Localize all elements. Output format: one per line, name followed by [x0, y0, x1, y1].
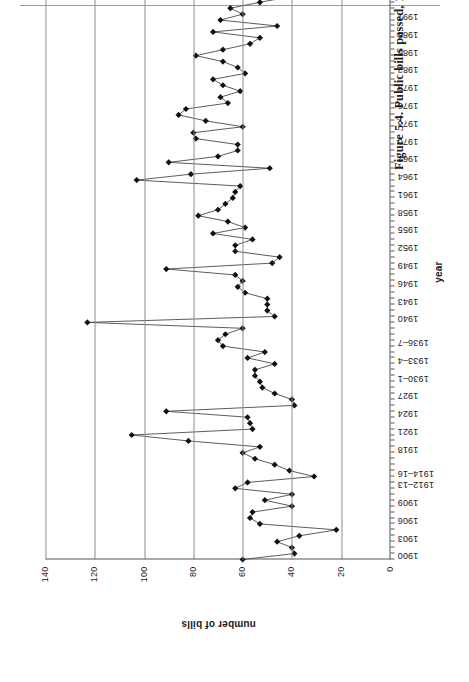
- data-point-marker: [227, 5, 233, 11]
- data-point-marker: [259, 384, 265, 390]
- data-point-marker: [210, 29, 216, 35]
- x-tick: [391, 250, 395, 251]
- y-tick-label: 140: [41, 567, 50, 583]
- x-tick-label: 1921: [398, 427, 419, 436]
- x-tick-label: 1918: [398, 445, 419, 454]
- y-tick-label: 80: [189, 567, 198, 577]
- x-tick: [391, 173, 395, 174]
- x-tick: [391, 209, 395, 210]
- x-tick-label: 1940: [398, 314, 419, 323]
- x-tick: [391, 446, 395, 447]
- y-tick-label: 120: [90, 567, 99, 583]
- y-tick-label: 40: [287, 567, 296, 577]
- y-tick-label: 20: [337, 567, 346, 577]
- x-tick: [391, 440, 395, 441]
- x-tick: [391, 387, 395, 388]
- data-point-marker: [215, 153, 221, 159]
- x-tick: [391, 244, 395, 245]
- data-point-marker: [264, 302, 270, 308]
- x-tick: [391, 404, 395, 405]
- x-tick: [391, 529, 395, 530]
- data-point-marker: [244, 355, 250, 361]
- gridline-y: [95, 0, 96, 560]
- x-tick: [391, 422, 395, 423]
- data-point-marker: [274, 23, 280, 29]
- x-tick: [391, 517, 395, 518]
- x-tick: [391, 310, 395, 311]
- x-tick-label: 1936–7: [398, 338, 429, 347]
- x-tick: [391, 292, 395, 293]
- data-point-marker: [203, 118, 209, 124]
- y-tick-label: 0: [386, 567, 395, 572]
- x-tick-label: 1946: [398, 279, 419, 288]
- scanned-page: number of bills 020406080100120140190019…: [0, 0, 469, 682]
- plot-inner: 02040608010012014019001903190619091912–1…: [46, 0, 391, 560]
- x-tick: [391, 458, 395, 459]
- x-tick: [391, 339, 395, 340]
- x-tick: [391, 493, 395, 494]
- x-tick: [391, 481, 395, 482]
- data-point-marker: [134, 177, 140, 183]
- data-point-marker: [166, 159, 172, 165]
- x-tick: [391, 345, 395, 346]
- data-point-marker: [210, 76, 216, 82]
- x-tick-label: 1903: [398, 534, 419, 543]
- x-tick: [391, 215, 395, 216]
- data-point-marker: [232, 242, 238, 248]
- data-point-marker: [267, 165, 273, 171]
- x-tick: [391, 381, 395, 382]
- x-tick: [391, 505, 395, 506]
- x-tick-label: 1961: [398, 190, 419, 199]
- x-tick: [391, 369, 395, 370]
- x-tick: [391, 298, 395, 299]
- data-point-marker: [249, 236, 255, 242]
- data-point-marker: [220, 47, 226, 53]
- x-tick-label: 1914–16: [398, 469, 434, 478]
- x-tick: [391, 185, 395, 186]
- data-point-marker: [252, 367, 258, 373]
- data-point-marker: [210, 230, 216, 236]
- data-point-marker: [232, 248, 238, 254]
- y-tick-label: 60: [238, 567, 247, 577]
- x-tick-label: 1964: [398, 172, 419, 181]
- x-tick: [391, 523, 395, 524]
- gridline-y: [292, 0, 293, 560]
- data-point-marker: [257, 444, 263, 450]
- data-point-marker: [235, 141, 241, 147]
- x-tick: [391, 315, 395, 316]
- x-tick: [391, 410, 395, 411]
- x-tick: [391, 393, 395, 394]
- data-point-marker: [244, 479, 250, 485]
- series-polyline: [87, 0, 336, 560]
- data-point-marker: [163, 266, 169, 272]
- data-point-marker: [84, 319, 90, 325]
- data-point-marker: [257, 521, 263, 527]
- data-point-marker: [220, 82, 226, 88]
- x-tick: [391, 428, 395, 429]
- x-tick-label: 1927: [398, 391, 419, 400]
- x-tick: [391, 327, 395, 328]
- x-tick-label: 1900: [398, 552, 419, 561]
- x-tick-label: 1912–13: [398, 480, 434, 489]
- x-tick: [391, 416, 395, 417]
- data-point-marker: [129, 432, 135, 438]
- x-tick: [391, 286, 395, 287]
- x-tick: [391, 535, 395, 536]
- x-tick: [391, 476, 395, 477]
- data-point-marker: [311, 473, 317, 479]
- x-tick: [391, 191, 395, 192]
- x-tick-label: 1924: [398, 409, 419, 418]
- figure-caption: Figure 5.4. Public bills passed, 1900–97: [392, 0, 412, 170]
- x-tick: [391, 398, 395, 399]
- x-tick: [391, 238, 395, 239]
- data-point-marker: [257, 0, 263, 5]
- data-point-marker: [272, 390, 278, 396]
- x-tick: [391, 351, 395, 352]
- data-point-marker: [244, 414, 250, 420]
- y-axis-label: number of bills: [46, 618, 391, 632]
- x-tick: [391, 274, 395, 275]
- data-point-marker: [163, 408, 169, 414]
- data-point-marker: [232, 485, 238, 491]
- data-point-marker: [185, 438, 191, 444]
- y-tick-label: 100: [140, 567, 149, 583]
